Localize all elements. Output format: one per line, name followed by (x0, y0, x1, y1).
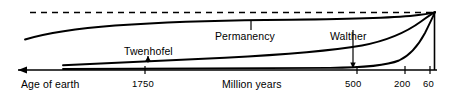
tick-label-1750: 1750 (132, 79, 154, 89)
axis-label-million-years: Million years (222, 79, 282, 90)
figure-container: Age of earth Million years 1750 500 200 … (0, 0, 464, 95)
series-label-twenhofel: Twenhofel (124, 46, 173, 57)
series-label-permanency: Permanency (215, 31, 275, 42)
tick-label-200: 200 (394, 79, 410, 89)
axis-label-age-of-earth: Age of earth (21, 79, 79, 90)
age-of-earth-arrow-icon (18, 67, 27, 74)
series-label-walther: Walther (330, 31, 367, 42)
tick-label-500: 500 (345, 79, 361, 89)
tick-label-60: 60 (423, 79, 434, 89)
